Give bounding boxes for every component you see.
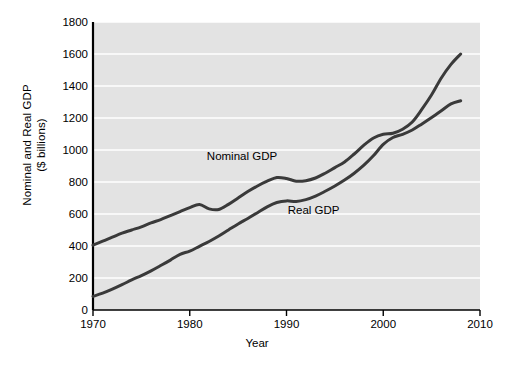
plot-background <box>93 22 480 310</box>
series-label-nominal-gdp: Nominal GDP <box>207 150 278 162</box>
gdp-line-chart: Nominal and Real GDP ($ billions) 020040… <box>0 0 514 370</box>
plot-area: Nominal GDPReal GDP <box>0 0 514 370</box>
series-label-real-gdp: Real GDP <box>288 204 340 216</box>
